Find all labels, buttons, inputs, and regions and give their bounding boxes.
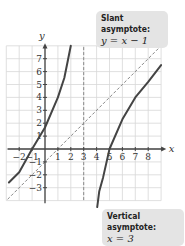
x-tick-label: 7 (132, 152, 138, 162)
y-tick-label: 3 (36, 105, 42, 115)
x-axis-label: x (169, 143, 175, 154)
x-tick-label: 2 (68, 152, 74, 162)
y-axis-label: y (38, 30, 45, 41)
slant-asymptote-title: Slant asymptote: (101, 13, 163, 35)
y-tick-label: −3 (29, 183, 43, 193)
slant-asymptote-callout: Slant asymptote: y = x − 1 (96, 11, 168, 48)
x-tick-label: 1 (55, 152, 61, 162)
vertical-asymptote-title: Vertical asymptote: (107, 211, 179, 233)
tick-labels: −2−112345678−3−2−11234567xy (13, 30, 175, 192)
vertical-asymptote-callout: Vertical asymptote: x = 3 (102, 209, 184, 246)
x-axis-arrow-icon (161, 147, 166, 152)
x-tick-label: 4 (94, 152, 100, 162)
y-tick-label: 2 (36, 118, 42, 128)
y-tick-label: −1 (29, 157, 42, 167)
slant-asymptote-equation: y = x − 1 (101, 35, 163, 46)
y-tick-label: 5 (36, 80, 42, 90)
y-tick-label: 4 (36, 92, 42, 102)
y-tick-label: −2 (29, 170, 42, 180)
x-tick-label: 3 (81, 152, 87, 162)
x-tick-label: −2 (13, 152, 26, 162)
x-tick-label: 6 (120, 152, 126, 162)
y-tick-label: 6 (36, 67, 42, 77)
x-tick-label: 8 (145, 152, 151, 162)
vertical-asymptote-equation: x = 3 (107, 233, 179, 244)
y-tick-label: 7 (36, 54, 42, 64)
